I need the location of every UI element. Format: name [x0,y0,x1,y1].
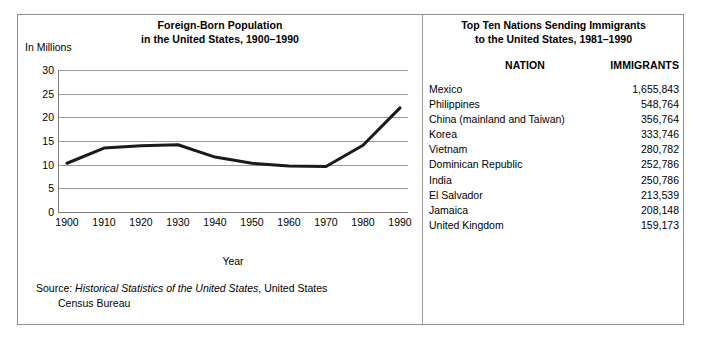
table-row: Korea333,746 [429,128,679,143]
x-axis-tick-label: 1950 [232,217,272,228]
immigrants-table: NATION IMMIGRANTS Mexico1,655,843Philipp… [429,59,679,234]
cell-nation: Dominican Republic [429,158,595,173]
y-axis-tick-label: 30 [20,65,54,75]
table-row: Jamaica208,148 [429,204,679,219]
source-left-line2: Census Bureau [36,296,426,311]
x-axis-tick-label: 1980 [343,217,383,228]
y-axis-tick-label: 20 [20,112,54,122]
cell-nation: China (mainland and Taiwan) [429,113,595,128]
cell-immigrants: 548,764 [595,98,679,113]
y-axis-tick-label: 15 [20,136,54,146]
table-row: Philippines548,764 [429,98,679,113]
cell-nation: India [429,174,595,189]
x-axis-tick-label: 1900 [47,217,87,228]
cell-immigrants: 208,148 [595,204,679,219]
x-axis-tick-label: 1960 [269,217,309,228]
x-axis-tick-label: 1970 [306,217,346,228]
x-axis-label: Year [58,255,408,267]
cell-nation: Korea [429,128,595,143]
source-left-prefix: Source: [36,282,75,294]
y-axis-tick-label: 0 [20,207,54,217]
source-left-suffix: , United States [258,282,327,294]
cell-nation: United Kingdom [429,219,595,234]
table-title-line2: to the United States, 1981–1990 [423,33,684,47]
x-axis-tick-label: 1940 [195,217,235,228]
x-axis-tick-label: 1920 [121,217,161,228]
table-title-line1: Top Ten Nations Sending Immigrants [423,19,684,33]
table-title: Top Ten Nations Sending Immigrants to th… [423,19,684,46]
table-body: Mexico1,655,843Philippines548,764China (… [429,83,679,234]
table-row: China (mainland and Taiwan)356,764 [429,113,679,128]
cell-immigrants: 159,173 [595,219,679,234]
cell-immigrants: 250,786 [595,174,679,189]
cell-nation: Jamaica [429,204,595,219]
cell-immigrants: 280,782 [595,143,679,158]
table-header: NATION IMMIGRANTS [429,59,679,83]
source-left-italic: Historical Statistics of the United Stat… [75,282,258,294]
line-series-foreign-born-population [59,70,408,212]
cell-immigrants: 213,539 [595,189,679,204]
table-row: Vietnam280,782 [429,143,679,158]
table-header-row: NATION IMMIGRANTS [429,59,679,83]
source-note-left: Source: Historical Statistics of the Uni… [36,281,426,310]
x-axis-tick-label: 1990 [380,217,420,228]
table-row: Dominican Republic252,786 [429,158,679,173]
cell-nation: Vietnam [429,143,595,158]
cell-immigrants: 1,655,843 [595,83,679,98]
y-axis-tick-label: 25 [20,89,54,99]
series-polyline [67,108,400,167]
cell-nation: Philippines [429,98,595,113]
x-axis-tick-label: 1910 [84,217,124,228]
cell-nation: Mexico [429,83,595,98]
column-header-immigrants: IMMIGRANTS [595,59,679,83]
table-row: Mexico1,655,843 [429,83,679,98]
table-row: El Salvador213,539 [429,189,679,204]
cell-immigrants: 333,746 [595,128,679,143]
y-axis-tick-label: 5 [20,183,54,193]
infographic-page: Foreign-Born Population in the United St… [0,0,701,337]
cell-immigrants: 252,786 [595,158,679,173]
left-panel-chart: Foreign-Born Population in the United St… [18,15,422,324]
table-row: United Kingdom159,173 [429,219,679,234]
cell-immigrants: 356,764 [595,113,679,128]
chart-plot-area: 0510152025301900191019201930194019501960… [58,70,408,213]
cell-nation: El Salvador [429,189,595,204]
y-axis-tick-label: 10 [20,160,54,170]
plot-wrapper: 0510152025301900191019201930194019501960… [18,15,422,324]
x-axis-tick-label: 1930 [158,217,198,228]
column-header-nation: NATION [429,59,595,83]
right-panel-table: Top Ten Nations Sending Immigrants to th… [423,15,684,324]
table-row: India250,786 [429,174,679,189]
